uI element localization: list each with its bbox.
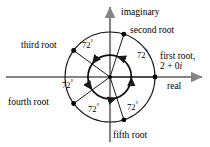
complex-plane-figure: imaginary real second root third root fo… [0, 0, 210, 147]
third-root-label: third root [21, 41, 57, 51]
degree-symbol-2: ° [91, 38, 94, 45]
first-root-label: first root, 2 + 0i [160, 52, 195, 72]
angle-label-4: 72° [88, 103, 99, 114]
angle-arc-4 [92, 90, 117, 99]
point-fourth-root [71, 101, 76, 106]
origin-point [108, 75, 112, 79]
angle-label-1: 72° [137, 49, 148, 60]
point-fifth-root [122, 117, 127, 122]
angle-arc-1 [117, 56, 132, 77]
imaginary-axis-label: imaginary [121, 8, 160, 18]
angle-value-1: 72 [137, 50, 146, 60]
angle-arc-2 [92, 55, 117, 64]
angle-value-4: 72 [88, 104, 97, 114]
fifth-root-label: fifth root [113, 131, 147, 141]
angle-value-5: 72 [127, 102, 136, 112]
angle-value-3: 72 [62, 80, 71, 90]
imaginary-unit-glyph: i [180, 61, 183, 71]
point-first-root [153, 75, 158, 80]
second-root-label: second root [130, 26, 174, 36]
fourth-root-label: fourth root [8, 98, 49, 108]
degree-symbol-3: ° [71, 78, 74, 85]
real-axis-label: real [167, 82, 181, 92]
angle-arc-5 [117, 77, 132, 98]
angle-label-2: 72° [82, 39, 93, 50]
point-second-root [122, 32, 127, 37]
point-third-root [71, 48, 76, 53]
diagram-canvas [0, 0, 210, 147]
degree-symbol-4: ° [97, 102, 100, 109]
first-root-value: 2 + 0 [160, 61, 180, 71]
angle-value-2: 72 [82, 40, 91, 50]
angle-label-5: 72° [127, 101, 138, 112]
degree-symbol-1: ° [146, 48, 149, 55]
degree-symbol-5: ° [136, 100, 139, 107]
angle-label-3: 72° [62, 79, 73, 90]
first-root-label-line2: 2 + 0i [160, 62, 195, 72]
